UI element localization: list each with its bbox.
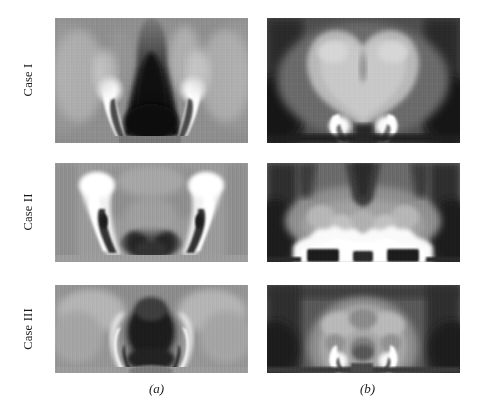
panel-b-case-1	[267, 18, 460, 143]
column-label-b: (b)	[360, 381, 375, 397]
row-label-case-3: Case III	[21, 308, 36, 350]
panel-a-case-3	[55, 285, 248, 373]
panel-a-case-2	[55, 163, 248, 262]
row-label-case-2: Case II	[21, 193, 36, 230]
row-label-case-1: Case I	[21, 64, 36, 97]
column-label-a: (a)	[149, 381, 164, 397]
panel-b-case-2	[267, 163, 460, 262]
panel-a-case-1	[55, 18, 248, 143]
figure-panel-grid: Case I Case II Case III (a) (b)	[0, 0, 481, 417]
panel-b-case-3	[267, 285, 460, 373]
